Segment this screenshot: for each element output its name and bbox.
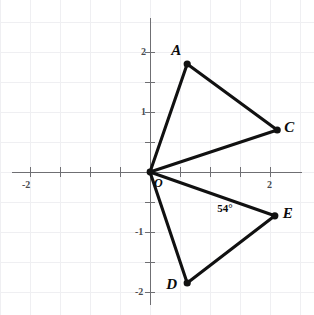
point-label-C: C [284,119,294,136]
point-label-A: A [171,42,181,59]
segment-OE [150,172,275,216]
x-tick-label: 2 [267,179,272,190]
vertex-dots [147,60,281,286]
point-label-E: E [283,205,293,222]
point-label-O: O [154,176,163,191]
vertex-dot-O [147,169,154,176]
angle-54-label: 54° [217,202,232,214]
y-tick-label: -2 [135,286,143,297]
vertex-dot-C [274,126,281,133]
grid-lines [0,0,314,315]
segment-DE [187,216,275,283]
segment-OC [150,130,277,172]
vertex-dot-E [271,212,278,219]
segment-AC [187,64,277,130]
vertex-dot-D [184,279,191,286]
y-tick-label: -1 [135,226,143,237]
polygon-segments [150,64,277,283]
y-tick-label: 1 [141,106,146,117]
plot-canvas [0,0,314,315]
axes [12,18,302,305]
point-label-D: D [166,276,177,293]
segment-OA [150,64,187,172]
vertex-dot-A [184,60,191,67]
y-tick-label: 2 [141,46,146,57]
coordinate-plane-figure: -2221-1-2OACED54° [0,0,314,315]
x-tick-label: -2 [22,179,30,190]
